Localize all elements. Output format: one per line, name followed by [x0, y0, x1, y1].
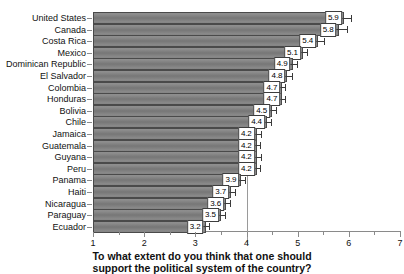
x-axis-tick-major: [195, 232, 196, 237]
x-axis-tick-label: 4: [244, 238, 249, 248]
error-bar-cap-high: [260, 165, 261, 172]
bar-row: 4.8: [93, 70, 400, 82]
y-axis-tick: [87, 192, 92, 193]
y-axis-tick: [87, 64, 92, 65]
error-bar-cap-high: [297, 61, 298, 68]
bar-row: 5.4: [93, 35, 400, 47]
x-axis-tick-label: 7: [397, 238, 402, 248]
error-bar-cap-high: [261, 131, 262, 138]
y-axis-tick: [87, 180, 92, 181]
bar: [93, 105, 272, 117]
y-axis-tick-label: Honduras: [0, 93, 86, 105]
x-axis-tick-label: 3: [193, 238, 198, 248]
plot-area: 5.95.85.45.14.94.84.74.74.54.44.24.24.24…: [93, 12, 400, 231]
error-bar-cap-high: [235, 189, 236, 196]
error-bar-cap-high: [209, 223, 210, 230]
x-axis-tick-minor: [374, 232, 375, 235]
x-axis-tick-major: [349, 232, 350, 237]
y-axis-tick: [87, 53, 92, 54]
error-bar-cap-high: [260, 142, 261, 149]
y-axis-tick-label: Bolivia: [0, 105, 86, 117]
y-axis-tick: [87, 157, 92, 158]
bar: [93, 82, 282, 94]
error-bar-cap-high: [285, 84, 286, 91]
bar: [93, 128, 257, 140]
bar: [93, 58, 293, 70]
x-axis-tick-label: 5: [295, 238, 300, 248]
bar-row: 3.7: [93, 186, 400, 198]
error-bar-cap-high: [276, 107, 277, 114]
x-axis-tick-minor: [119, 232, 120, 235]
bar: [93, 47, 303, 59]
error-bar-cap-high: [245, 177, 246, 184]
y-axis-tick: [87, 76, 92, 77]
bar-row: 4.7: [93, 82, 400, 94]
y-axis-tick-label: Canada: [0, 24, 86, 36]
bar-row: 3.9: [93, 174, 400, 186]
y-axis-tick-label: Paraguay: [0, 209, 86, 221]
y-axis-tick: [87, 18, 92, 19]
y-axis-tick-label: Colombia: [0, 82, 86, 94]
y-axis-tick-label: Haiti: [0, 186, 86, 198]
bar-row: 5.1: [93, 47, 400, 59]
x-axis-tick-minor: [272, 232, 273, 235]
x-axis-tick-minor: [221, 232, 222, 235]
x-axis-tick-label: 2: [142, 238, 147, 248]
y-axis-tick-label: Chile: [0, 116, 86, 128]
error-bar-cap-high: [230, 200, 231, 207]
y-axis-tick: [87, 134, 92, 135]
y-axis-tick-label: Guyana: [0, 151, 86, 163]
bar: [93, 12, 344, 24]
y-axis-tick: [87, 146, 92, 147]
y-axis-tick: [87, 169, 92, 170]
error-bar-cap-high: [285, 96, 286, 103]
x-axis-tick-major: [144, 232, 145, 237]
bar-row: 3.6: [93, 198, 400, 210]
y-axis-labels: United StatesCanadaCosta RicaMexicoDomin…: [0, 12, 86, 231]
x-axis-tick-major: [400, 232, 401, 237]
y-axis-tick: [87, 227, 92, 228]
error-bar-cap-high: [225, 212, 226, 219]
error-bar-cap-high: [351, 15, 352, 22]
y-axis-tick: [87, 88, 92, 89]
y-axis-tick: [87, 30, 92, 31]
y-axis-tick-label: Guatemala: [0, 140, 86, 152]
bar-row: 4.2: [93, 163, 400, 175]
y-axis-tick: [87, 215, 92, 216]
error-bar-cap-high: [261, 154, 262, 161]
x-axis-tick-label: 6: [346, 238, 351, 248]
bar-row: 3.2: [93, 221, 400, 233]
bar-row: 5.9: [93, 12, 400, 24]
error-bar-cap-high: [324, 38, 325, 45]
y-axis-tick: [87, 99, 92, 100]
y-axis-tick: [87, 41, 92, 42]
x-axis-tick-minor: [323, 232, 324, 235]
y-axis-tick-label: Panama: [0, 174, 86, 186]
bar-row: 5.8: [93, 24, 400, 36]
bar: [93, 70, 287, 82]
bar-row: 4.9: [93, 58, 400, 70]
x-axis-caption-line1: To what extent do you think that one sho…: [92, 250, 311, 262]
y-axis-tick-label: Peru: [0, 163, 86, 175]
y-axis-tick-label: El Salvador: [0, 70, 86, 82]
y-axis-tick-label: Dominican Republic: [0, 58, 86, 70]
x-axis-tick-major: [298, 232, 299, 237]
bar-row: 4.5: [93, 105, 400, 117]
x-axis-tick-label: 1: [90, 238, 95, 248]
x-axis-tick-major: [247, 232, 248, 237]
y-axis-tick-label: Costa Rica: [0, 35, 86, 47]
bar-row: 3.5: [93, 209, 400, 221]
x-axis-caption: To what extent do you think that one sho…: [0, 250, 404, 274]
y-axis-tick-label: Nicaragua: [0, 198, 86, 210]
y-axis-tick-label: Ecuador: [0, 221, 86, 233]
bar: [93, 151, 257, 163]
y-axis-tick-label: Mexico: [0, 47, 86, 59]
bar-row: 4.7: [93, 93, 400, 105]
x-axis-caption-line2: support the political system of the coun…: [0, 262, 404, 274]
y-axis-tick: [87, 122, 92, 123]
y-axis-tick-label: Jamaica: [0, 128, 86, 140]
x-axis-tick-minor: [170, 232, 171, 235]
y-axis-tick: [87, 204, 92, 205]
error-bar-cap-high: [307, 49, 308, 56]
error-bar-cap-high: [292, 73, 293, 80]
